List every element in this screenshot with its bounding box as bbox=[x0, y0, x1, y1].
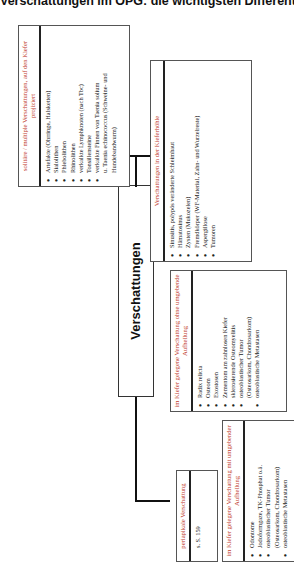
list-item: verkalkte Lymphknoten (nach Tbc) bbox=[77, 30, 85, 182]
list-item: osteoblastischer Tumor bbox=[264, 425, 272, 557]
list-item: sklerosierende Osteomyelitis bbox=[229, 275, 237, 407]
box-ohne-aufhellung: im Kiefer gelegene Verschattung ohne umg… bbox=[170, 270, 287, 412]
list-item: Tumoren bbox=[209, 65, 217, 257]
list-item: Exostosen bbox=[212, 275, 220, 407]
connector-line bbox=[135, 500, 170, 502]
list-item: verkalkte Finnen von Taenia solium bbox=[93, 30, 101, 182]
list-item: (Osteosarkom, Chondrosarkom) bbox=[245, 275, 253, 407]
list-item: Radix relicta bbox=[196, 275, 204, 407]
list-item: osteoblastische Metastasen bbox=[253, 275, 261, 407]
page-title: Verschattungen im OPG: die wichtigsten D… bbox=[0, 0, 294, 10]
list-item: u. Taenia echinococcus (Schweine- und Hu… bbox=[101, 30, 117, 182]
box-title: im Kiefer gelegene Verschattung mit umge… bbox=[223, 421, 245, 561]
box-mit-aufhellung: im Kiefer gelegene Verschattung mit umge… bbox=[222, 420, 294, 562]
list-item: Artefakte (Ohrringe, Halsketten) bbox=[44, 30, 52, 182]
box-title: im Kiefer gelegene Verschattung ohne umg… bbox=[171, 271, 193, 411]
box-solitaer: solitäre / multiple Verschattungen, auf … bbox=[18, 25, 130, 187]
box-title: Verschattungen in der Kieferhöhle bbox=[151, 61, 165, 261]
list-item: (Osteosarkom, Chondrosarkom) bbox=[273, 425, 281, 557]
list-item: Fremdkörper (WF-Material, Zahn- und Wurz… bbox=[193, 65, 201, 257]
list-item: Osteom bbox=[204, 275, 212, 407]
list-item: osteoblastischer Tumor bbox=[237, 275, 245, 407]
center-node: Verschattungen bbox=[118, 185, 154, 397]
list-item: s. S. 159 bbox=[194, 475, 202, 557]
list-item: Phlebolithen bbox=[60, 30, 68, 182]
diagram-canvas: Verschattungen periapikale Verschattung … bbox=[0, 10, 294, 562]
connector-line bbox=[135, 157, 137, 187]
list-item: Jodoformgaze, TK-Phosphat o.ä. bbox=[256, 425, 264, 557]
list-item: Zementom am zahnlosen Kiefer bbox=[221, 275, 229, 407]
list-item: Aspergillose bbox=[201, 65, 209, 257]
list-item: Tonsillensteine bbox=[85, 30, 93, 182]
list-item: Hämatosinus bbox=[176, 65, 184, 257]
box-periapikal: periapikale Verschattung s. S. 159 bbox=[176, 470, 218, 562]
connector-line bbox=[135, 397, 137, 502]
list-item: Odontome bbox=[248, 425, 256, 557]
list-item: Zysten (Mukozelen) bbox=[184, 65, 192, 257]
box-title: periapikale Verschattung bbox=[177, 471, 191, 561]
box-title: solitäre / multiple Verschattungen, auf … bbox=[19, 26, 41, 186]
box-kieferhoehle: Verschattungen in der Kieferhöhle Sinusi… bbox=[150, 60, 252, 262]
list-item: Rhinolithen bbox=[69, 30, 77, 182]
list-item: Sialolithen bbox=[52, 30, 60, 182]
list-item: Sinusitis, polypös veränderte Schleimhau… bbox=[168, 65, 176, 257]
list-item: osteoblastische Metastasen bbox=[281, 425, 289, 557]
